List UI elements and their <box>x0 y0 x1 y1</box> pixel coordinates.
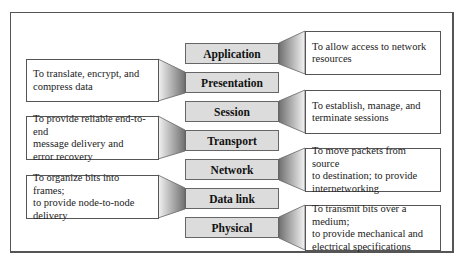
desc-line: compress data <box>33 81 139 94</box>
desc-line: To translate, encrypt, and <box>33 68 139 81</box>
layer-physical: Physical <box>185 217 279 238</box>
desc-physical: To transmit bits over a medium; to provi… <box>305 205 441 251</box>
layer-transport: Transport <box>185 130 279 151</box>
desc-line: error recovery <box>33 151 152 164</box>
desc-network: To move packets from source to destinati… <box>305 148 441 192</box>
desc-line: terminate sessions <box>312 112 421 125</box>
desc-line: internetworking <box>312 183 434 196</box>
desc-line: To organize bits into frames; <box>33 172 152 197</box>
layer-application: Application <box>185 43 279 64</box>
desc-line: to provide mechanical and <box>312 228 434 241</box>
desc-transport: To provide reliable end-to-end message d… <box>26 116 159 160</box>
desc-line: to provide node-to-node <box>33 197 152 210</box>
desc-application: To allow access to network resources <box>305 31 441 75</box>
desc-line: To allow access to network <box>312 41 426 54</box>
layer-presentation: Presentation <box>185 72 279 93</box>
desc-line: resources <box>312 53 426 66</box>
desc-line: To provide reliable end-to-end <box>33 113 152 138</box>
layer-session: Session <box>185 101 279 122</box>
desc-line: message delivery and <box>33 138 152 151</box>
desc-line: To transmit bits over a medium; <box>312 203 434 228</box>
desc-line: delivery <box>33 210 152 223</box>
layer-network: Network <box>185 159 279 180</box>
desc-line: To move packets from source <box>312 145 434 170</box>
desc-line: To establish, manage, and <box>312 100 421 113</box>
desc-line: electrical specifications <box>312 241 434 254</box>
layer-data-link: Data link <box>185 188 279 209</box>
desc-line: to destination; to provide <box>312 170 434 183</box>
desc-session: To establish, manage, and terminate sess… <box>305 90 441 134</box>
desc-presentation: To translate, encrypt, and compress data <box>26 59 159 102</box>
desc-data-link: To organize bits into frames; to provide… <box>26 175 159 219</box>
